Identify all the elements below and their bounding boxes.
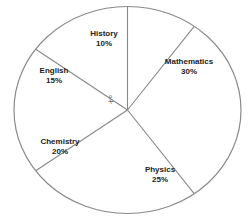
mathematics-name: Mathematics xyxy=(165,57,214,66)
mathematics-pct: 30% xyxy=(181,67,197,76)
slice-label-mathematics: Mathematics 30% xyxy=(165,57,214,76)
slice-label-history: History 10% xyxy=(90,29,118,48)
history-pct: 10% xyxy=(96,39,112,48)
english-name: English xyxy=(40,66,69,75)
physics-name: Physics xyxy=(145,165,176,174)
slice-label-physics: Physics 25% xyxy=(145,165,176,184)
chemistry-name: Chemistry xyxy=(40,137,80,146)
slice-label-chemistry: Chemistry 20% xyxy=(40,137,80,156)
physics-pct: 25% xyxy=(152,175,168,184)
history-name: History xyxy=(90,29,118,38)
chemistry-pct: 20% xyxy=(52,147,68,156)
slice-label-english: English 15% xyxy=(40,66,69,85)
pie-chart: History 10% Mathematics 30% Physics 25% … xyxy=(0,0,249,218)
english-pct: 15% xyxy=(46,76,62,85)
